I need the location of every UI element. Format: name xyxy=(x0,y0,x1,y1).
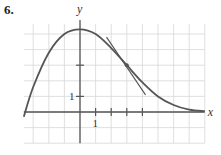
tangent-point xyxy=(125,63,129,67)
y-axis-label: y xyxy=(76,2,83,16)
function-curve xyxy=(24,29,205,116)
y-tick-label-1: 1 xyxy=(69,90,75,102)
x-axis-label: x xyxy=(207,105,214,119)
x-tick-label-1: 1 xyxy=(93,117,99,129)
axes xyxy=(24,20,205,143)
grid xyxy=(24,24,205,143)
graph: x y 1 1 xyxy=(0,0,221,155)
